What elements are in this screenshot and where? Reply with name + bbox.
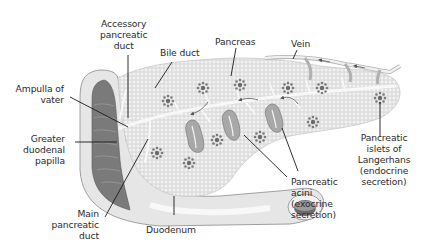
label-pancreatic-acini: Pancreatic acini (exocrine secretion) (291, 176, 338, 220)
label-bile-duct: Bile duct (160, 47, 199, 58)
label-pancreatic-islets: Pancreatic islets of Langerhans (endocri… (354, 132, 414, 187)
label-main-pancreatic-duct: Main pancreatic duct (50, 208, 99, 241)
label-duodenum: Duodenum (146, 224, 196, 235)
label-accessory-pancreatic-duct: Accessory pancreatic duct (100, 18, 147, 51)
label-ampulla-of-vater: Ampulla of vater (13, 83, 64, 105)
label-vein: Vein (291, 38, 310, 49)
label-pancreas: Pancreas (215, 36, 255, 47)
label-greater-duodenal-papilla: Greater duodenal papilla (20, 133, 65, 166)
